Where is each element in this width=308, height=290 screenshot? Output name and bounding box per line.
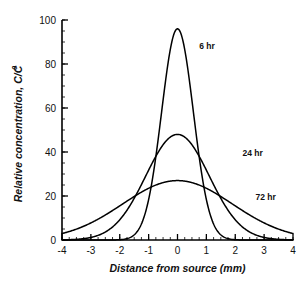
curve-label-6-hr: 6 hr	[199, 41, 215, 51]
y-axis-tick-labels: 020406080100	[39, 15, 56, 246]
figure-container: -4-3-2-101234 020406080100 6 hr24 hr72 h…	[0, 0, 308, 290]
x-axis-major-ticks	[62, 234, 293, 240]
x-tick-label: 1	[204, 245, 210, 256]
x-axis-tick-labels: -4-3-2-101234	[58, 245, 297, 256]
x-tick-label: 2	[232, 245, 238, 256]
x-tick-label: 4	[290, 245, 296, 256]
x-tick-label: -3	[86, 245, 95, 256]
x-axis-title: Distance from source (mm)	[110, 262, 246, 274]
y-tick-label: 40	[45, 147, 57, 158]
diffusion-concentration-chart: -4-3-2-101234 020406080100 6 hr24 hr72 h…	[0, 0, 308, 290]
data-curves	[62, 29, 293, 240]
y-tick-label: 20	[45, 191, 57, 202]
curve-72-hr	[62, 181, 293, 234]
curve-label-24-hr: 24 hr	[242, 148, 263, 158]
y-tick-label: 0	[50, 235, 56, 246]
x-tick-label: -1	[144, 245, 153, 256]
x-tick-label: 3	[261, 245, 267, 256]
x-tick-label: -4	[58, 245, 67, 256]
y-axis-title-text: Relative concentration, C/C	[12, 65, 24, 202]
x-tick-label: 0	[175, 245, 181, 256]
y-axis-title: Relative concentration, C/C 0	[10, 65, 24, 202]
y-tick-label: 60	[45, 103, 57, 114]
y-tick-label: 80	[45, 59, 57, 70]
x-tick-label: -2	[115, 245, 124, 256]
y-tick-label: 100	[39, 15, 56, 26]
curve-label-72-hr: 72 hr	[255, 192, 276, 202]
